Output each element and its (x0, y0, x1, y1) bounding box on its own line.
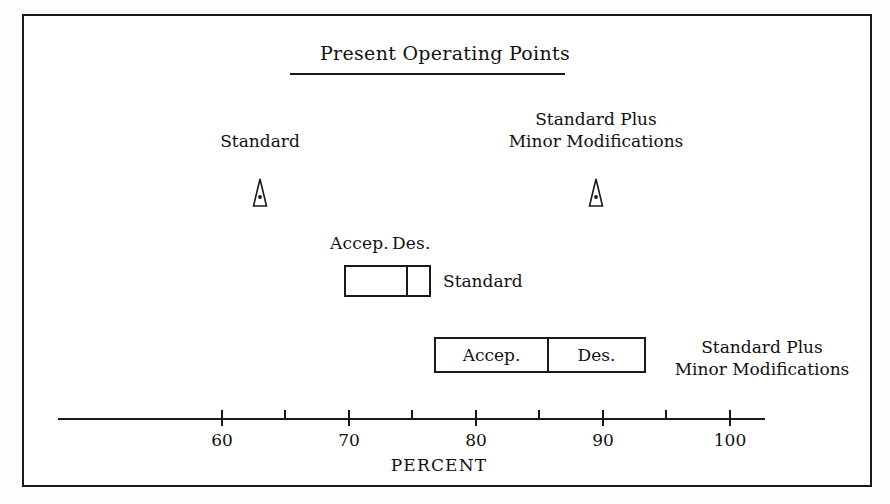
operating-point-label-standard-plus: Standard Plus Minor Modifications (480, 108, 712, 152)
triangle-pointer-marker-standard-plus (587, 178, 605, 208)
x-axis-minor-tick-1 (411, 410, 413, 419)
x-axis-minor-tick-3 (665, 410, 667, 419)
x-axis-major-tick-80 (475, 410, 477, 426)
figure-title: Present Operating Points (0, 42, 890, 67)
bar-standard-plus-segment-des: Des. (549, 339, 644, 371)
bar-standard-plus-segment-accep: Accep. (436, 339, 549, 371)
bar-standard-caption-des: Des. (392, 233, 431, 253)
bar-standard-plus-range-box: Accep. Des. (434, 337, 646, 373)
x-axis-major-tick-70 (348, 410, 350, 426)
x-axis-tick-label-90: 90 (573, 430, 633, 450)
x-axis-tick-label-70: 70 (319, 430, 379, 450)
x-axis-major-tick-60 (221, 410, 223, 426)
bar-standard-label: Standard (443, 271, 523, 291)
x-axis-major-tick-90 (602, 410, 604, 426)
x-axis-minor-tick-2 (538, 410, 540, 419)
x-axis-tick-label-60: 60 (192, 430, 252, 450)
figure-title-underline (290, 73, 565, 75)
figure-operating-points: Present Operating Points Standard Standa… (0, 0, 890, 504)
figure-title-text: Present Operating Points (318, 42, 572, 67)
bar-standard-plus-label-line1: Standard Plus (654, 336, 870, 358)
bar-standard-range-box (344, 265, 431, 297)
operating-point-label-standard: Standard (160, 130, 360, 152)
bar-standard-caption-accep: Accep. (330, 233, 392, 253)
x-axis-minor-tick-0 (284, 410, 286, 419)
operating-point-label-standard-plus-line2: Minor Modifications (480, 130, 712, 152)
operating-point-label-standard-plus-line1: Standard Plus (480, 108, 712, 130)
bar-standard-plus-label: Standard Plus Minor Modifications (654, 336, 870, 380)
operating-point-label-standard-text: Standard (220, 131, 300, 151)
figure-border-frame (22, 14, 872, 487)
x-axis-tick-label-100: 100 (700, 430, 760, 450)
bar-standard-range-divider (406, 267, 408, 295)
bar-standard-caption: Accep.Des. (330, 233, 431, 253)
bar-standard-plus-label-line2: Minor Modifications (654, 358, 870, 380)
x-axis-title-text: PERCENT (391, 455, 488, 475)
x-axis-tick-label-80: 80 (446, 430, 506, 450)
x-axis-title: PERCENT (0, 455, 890, 475)
triangle-pointer-marker-standard (251, 178, 269, 208)
x-axis-major-tick-100 (729, 410, 731, 426)
